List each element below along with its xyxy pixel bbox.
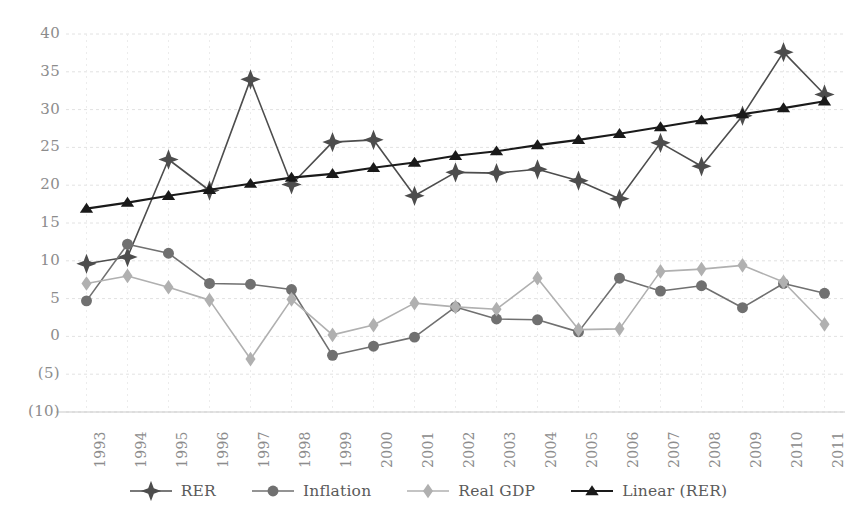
data-point-marker	[696, 280, 707, 291]
data-point-marker	[245, 279, 256, 290]
data-point-marker	[491, 302, 501, 317]
x-axis-tick-label: 2006	[626, 431, 640, 468]
x-axis-tick-label: 2005	[585, 431, 599, 468]
data-point-marker	[158, 149, 178, 169]
legend-item-label: Linear (RER)	[622, 482, 727, 500]
y-axis-tick-label: (10)	[28, 404, 60, 419]
x-axis-tick-label: 2000	[380, 431, 394, 468]
y-axis-tick-label: 30	[40, 102, 60, 117]
y-axis-tick-label: 40	[40, 26, 60, 41]
legend-item-rer[interactable]: RER	[128, 481, 216, 501]
data-point-marker	[117, 247, 137, 267]
x-axis-tick-label: 1995	[175, 431, 189, 468]
y-axis-tick-label: 10	[40, 253, 60, 268]
data-point-marker	[819, 317, 829, 332]
y-axis-tick-label: 5	[50, 291, 60, 306]
data-point-marker	[445, 162, 465, 182]
x-axis-tick-label: 1997	[257, 431, 271, 468]
line-chart: 4035302520151050(5)(10) 1993199419951996…	[0, 0, 855, 517]
legend-item-linear-rer[interactable]: Linear (RER)	[569, 481, 727, 501]
data-point-marker	[404, 186, 424, 206]
chart-legend: RERInflationReal GDPLinear (RER)	[0, 476, 855, 506]
x-axis-tick-label: 2010	[790, 431, 804, 468]
x-axis-tick-label: 1998	[298, 431, 312, 468]
x-axis-tick-label: 1996	[216, 431, 230, 468]
legend-item-inflation[interactable]: Inflation	[250, 481, 371, 501]
y-axis-tick-label: (5)	[38, 366, 60, 381]
data-point-marker	[696, 262, 706, 277]
legend-item-label: RER	[181, 482, 216, 500]
y-axis-tick-label: 25	[40, 139, 60, 154]
data-point-marker	[163, 280, 173, 295]
y-axis-tick-label: 0	[50, 328, 60, 343]
y-axis-tick-label: 35	[40, 64, 60, 79]
x-axis-tick-label: 1999	[339, 431, 353, 468]
data-point-marker	[409, 332, 420, 343]
data-point-marker	[819, 288, 830, 299]
legend-item-label: Real GDP	[458, 482, 535, 500]
x-axis-tick-label: 2001	[421, 431, 435, 468]
data-point-marker	[204, 278, 215, 289]
circle-marker	[250, 481, 296, 501]
data-point-marker	[327, 328, 337, 343]
x-axis-tick-label: 2004	[544, 431, 558, 468]
x-axis-tick-label: 2009	[749, 431, 763, 468]
gridlines	[66, 34, 845, 412]
x-axis-tick-label: 2002	[462, 431, 476, 468]
diamond-marker	[405, 481, 451, 501]
data-point-marker	[409, 296, 419, 311]
data-point-marker	[76, 254, 96, 274]
data-point-marker	[327, 350, 338, 361]
data-point-marker	[81, 295, 92, 306]
star-marker	[128, 481, 174, 501]
data-point-marker	[163, 248, 174, 259]
data-point-marker	[568, 171, 588, 191]
data-point-marker	[240, 69, 260, 89]
data-point-marker	[818, 95, 831, 105]
y-axis-tick-label: 15	[40, 215, 60, 230]
data-point-marker	[368, 341, 379, 352]
data-point-marker	[368, 318, 378, 333]
triangle-marker	[569, 481, 615, 501]
x-axis-tick-label: 1994	[134, 431, 148, 468]
data-point-marker	[737, 258, 747, 273]
data-point-marker	[655, 286, 666, 297]
x-axis-tick-label: 2011	[831, 431, 845, 468]
x-axis-tick-label: 1993	[93, 431, 107, 468]
data-point-marker	[486, 163, 506, 183]
data-point-marker	[650, 133, 670, 153]
x-axis-tick-label: 2008	[708, 431, 722, 468]
data-point-marker	[122, 269, 132, 284]
data-point-marker	[81, 276, 91, 291]
legend-item-label: Inflation	[303, 482, 371, 500]
x-axis-tick-label: 2003	[503, 431, 517, 468]
data-point-marker	[122, 239, 133, 250]
data-point-marker	[609, 189, 629, 209]
x-axis-tick-label: 2007	[667, 431, 681, 468]
data-point-marker	[532, 314, 543, 325]
y-axis-tick-label: 20	[40, 177, 60, 192]
data-point-marker	[450, 300, 460, 315]
data-point-marker	[737, 302, 748, 313]
data-point-marker	[527, 159, 547, 179]
data-point-marker	[614, 273, 625, 284]
legend-item-real-gdp[interactable]: Real GDP	[405, 481, 535, 501]
data-point-marker	[691, 156, 711, 176]
